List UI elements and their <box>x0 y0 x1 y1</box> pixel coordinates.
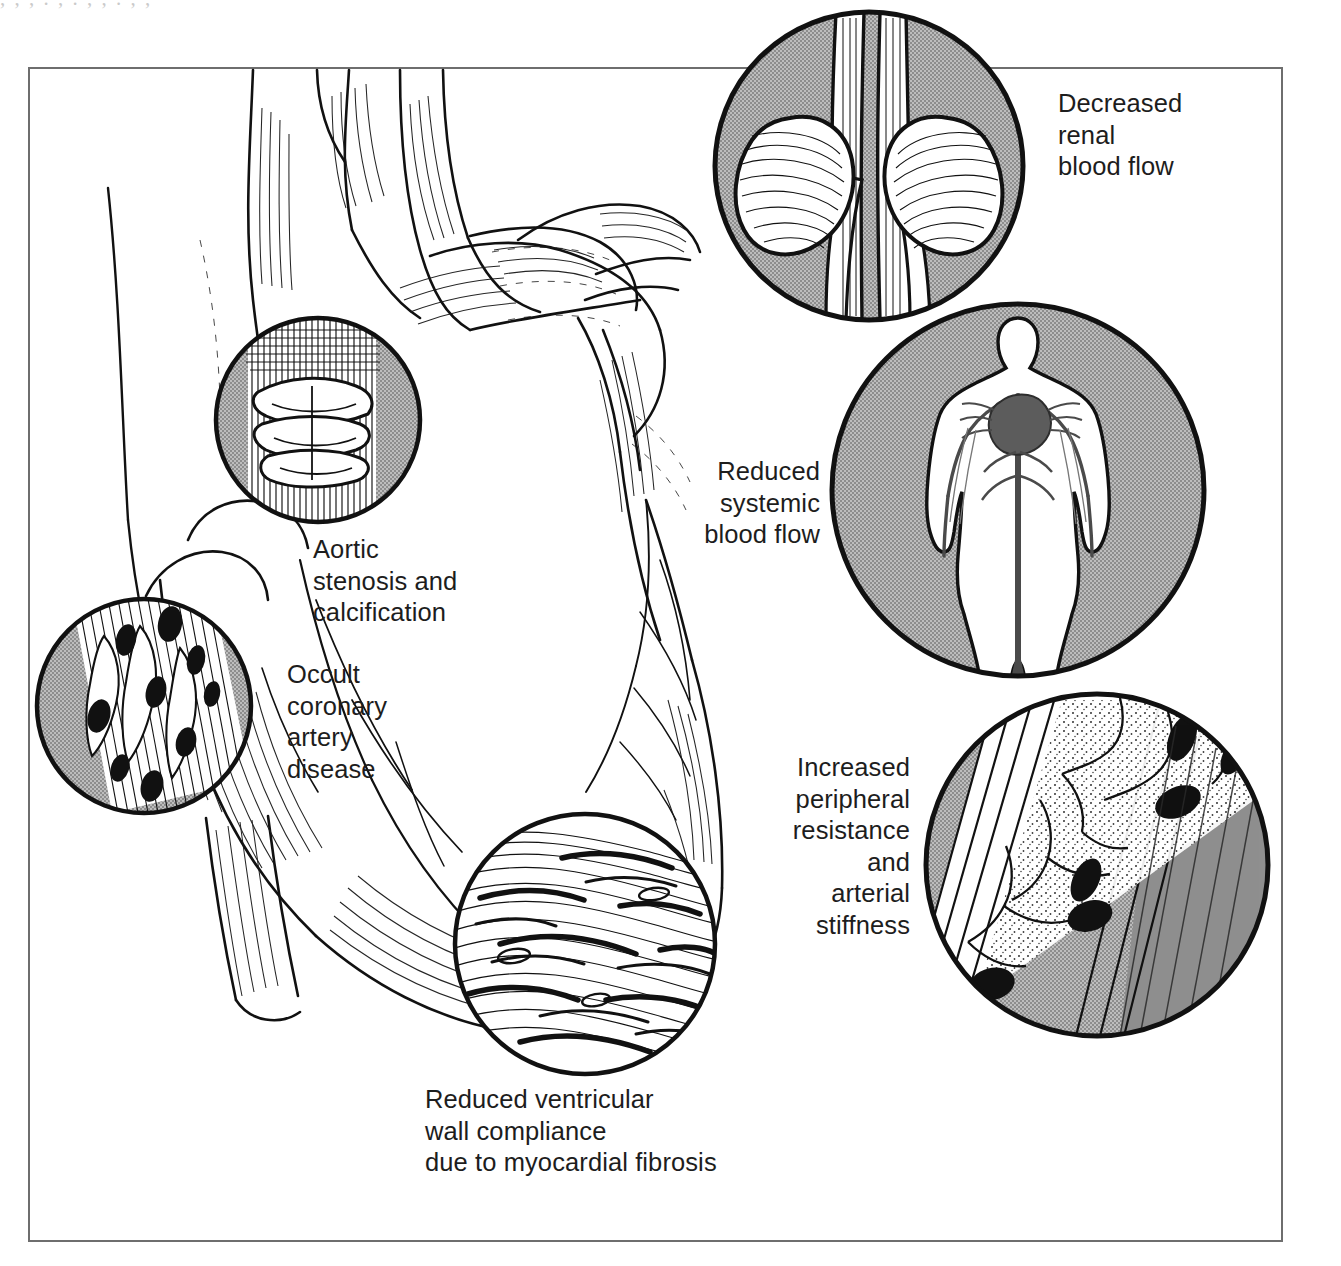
caption-occult-coronary-artery-disease: Occult coronary artery disease <box>287 659 527 785</box>
caption-reduced-systemic-blood-flow: Reduced systemic blood flow <box>575 456 820 551</box>
caption-aortic-stenosis: Aortic stenosis and calcification <box>313 534 573 629</box>
caption-decreased-renal-blood-flow: Decreased renal blood flow <box>1058 88 1278 183</box>
figure-root: , , , . , . , , . , , <box>0 0 1341 1266</box>
caption-reduced-ventricular-compliance: Reduced ventricular wall compliance due … <box>425 1084 885 1179</box>
illustration-artwork <box>0 0 1341 1266</box>
caption-increased-peripheral-resistance: Increased peripheral resistance and arte… <box>760 752 910 941</box>
